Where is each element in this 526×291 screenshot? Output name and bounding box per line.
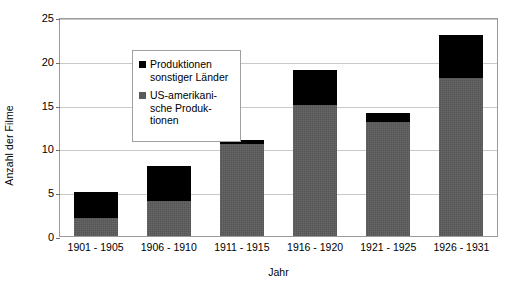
x-axis-tick-label: 1921 - 1925: [352, 241, 425, 253]
bar-segment-other-countries[interactable]: [439, 35, 483, 79]
bar-segment-us-productions[interactable]: [147, 201, 191, 236]
stacked-bar[interactable]: [293, 70, 337, 236]
legend-swatch-other-countries: [139, 61, 146, 68]
plot-area: Produktionen sonstiger Länder US-amerika…: [59, 18, 498, 237]
bar-slot: [351, 19, 424, 236]
bar-segment-other-countries[interactable]: [74, 192, 118, 218]
bar-segment-us-productions[interactable]: [220, 144, 264, 236]
bar-slot: [60, 19, 133, 236]
stacked-bar[interactable]: [439, 35, 483, 236]
y-axis-tickmark: [56, 238, 60, 239]
bar-segment-us-productions[interactable]: [439, 78, 483, 236]
y-axis-tick-label: 15: [30, 100, 54, 111]
x-axis-tick-label: 1916 - 1920: [279, 241, 352, 253]
bar-segment-us-productions[interactable]: [293, 105, 337, 236]
bar-chart: Anzahl der Filme 0510152025 Produktionen…: [0, 0, 526, 291]
y-axis-tick-label: 10: [30, 144, 54, 155]
legend-label-us-productions: US-amerikani- sche Produk- tionen: [150, 89, 217, 127]
y-axis-tick-label: 20: [30, 56, 54, 67]
stacked-bar[interactable]: [147, 166, 191, 236]
stacked-bar[interactable]: [366, 113, 410, 236]
bar-segment-other-countries[interactable]: [147, 166, 191, 201]
legend-item-other-countries: Produktionen sonstiger Länder: [139, 58, 235, 83]
bar-slot: [278, 19, 351, 236]
x-axis-tick-label: 1906 - 1910: [132, 241, 205, 253]
x-axis-tick-label: 1926 - 1931: [425, 241, 498, 253]
x-axis-tick-label: 1901 - 1905: [59, 241, 132, 253]
x-axis-tick-label: 1911 - 1915: [205, 241, 278, 253]
bar-segment-us-productions[interactable]: [366, 122, 410, 236]
x-axis-title: Jahr: [59, 266, 498, 278]
stacked-bar[interactable]: [220, 140, 264, 236]
bar-series-layer: [60, 19, 497, 236]
y-axis-tick-label: 25: [30, 13, 54, 24]
y-axis-tick-label: 0: [30, 232, 54, 243]
y-axis-tick-label: 5: [30, 188, 54, 199]
y-axis-tick-labels: 0510152025: [20, 0, 54, 291]
x-axis-tick-labels: 1901 - 19051906 - 19101911 - 19151916 - …: [59, 241, 498, 253]
legend-label-other-countries: Produktionen sonstiger Länder: [150, 58, 228, 83]
bar-slot: [424, 19, 497, 236]
chart-legend: Produktionen sonstiger Länder US-amerika…: [132, 50, 241, 142]
legend-swatch-us-productions: [139, 92, 146, 99]
stacked-bar[interactable]: [74, 192, 118, 236]
y-axis-title: Anzahl der Filme: [0, 0, 18, 291]
bar-segment-us-productions[interactable]: [74, 218, 118, 236]
legend-item-us-productions: US-amerikani- sche Produk- tionen: [139, 89, 235, 127]
bar-segment-other-countries[interactable]: [293, 70, 337, 105]
bar-segment-other-countries[interactable]: [366, 113, 410, 122]
